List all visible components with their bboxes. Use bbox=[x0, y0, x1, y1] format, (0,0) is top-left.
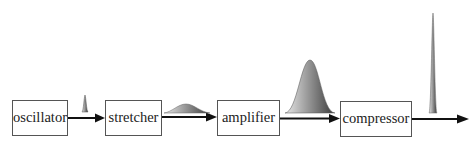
arrow-stretcher-amplifier bbox=[162, 113, 217, 122]
cpa-diagram: oscillator stretcher amplifier compresso… bbox=[0, 0, 476, 146]
stretcher-label: stretcher bbox=[109, 109, 159, 125]
pulse-amplified-icon bbox=[285, 60, 335, 113]
block-amplifier: amplifier bbox=[218, 101, 280, 136]
pulse-short-icon bbox=[82, 95, 88, 112]
amplifier-label: amplifier bbox=[222, 109, 275, 125]
arrow-compressor-output bbox=[412, 115, 469, 124]
arrowhead-icon bbox=[206, 113, 217, 122]
block-oscillator: oscillator bbox=[13, 101, 68, 136]
arrowhead-icon bbox=[329, 114, 340, 123]
pulse-stretched-icon bbox=[164, 104, 210, 113]
arrow-amplifier-compressor bbox=[280, 114, 340, 123]
pulse-compressed-icon bbox=[429, 13, 437, 113]
arrowhead-icon bbox=[95, 114, 105, 123]
block-stretcher: stretcher bbox=[106, 101, 162, 136]
block-compressor: compressor bbox=[341, 102, 412, 137]
arrow-oscillator-stretcher bbox=[68, 114, 105, 123]
arrowhead-icon bbox=[457, 115, 469, 124]
compressor-label: compressor bbox=[343, 110, 410, 126]
oscillator-label: oscillator bbox=[13, 109, 67, 125]
